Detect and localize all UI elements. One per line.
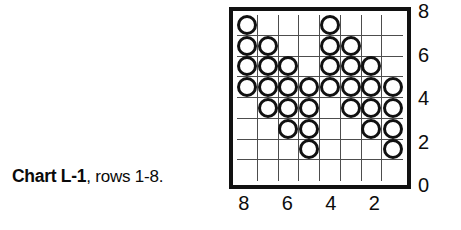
circle-stitch-icon xyxy=(320,77,340,97)
chart-cell-r3-c6 xyxy=(341,119,362,140)
chart-cell-r1-c7 xyxy=(362,160,383,181)
chart-cell-r1-c6 xyxy=(341,160,362,181)
circle-stitch-icon xyxy=(299,98,319,118)
chart-cell-r5-c4 xyxy=(299,77,320,98)
chart-cell-r1-c4 xyxy=(299,160,320,181)
chart-cell-r7-c4 xyxy=(299,36,320,57)
chart-cell-r2-c2 xyxy=(258,140,279,161)
chart-cell-r2-c6 xyxy=(341,140,362,161)
circle-stitch-icon xyxy=(320,56,340,76)
chart-cell-r6-c7 xyxy=(362,57,383,78)
circle-stitch-icon xyxy=(341,36,361,56)
chart-cell-r7-c1 xyxy=(237,36,258,57)
chart-cell-r4-c8 xyxy=(382,98,403,119)
chart-cell-r3-c1 xyxy=(237,119,258,140)
chart-cell-r3-c7 xyxy=(362,119,383,140)
circle-stitch-icon xyxy=(341,77,361,97)
x-axis-tick-label-6: 6 xyxy=(275,193,299,213)
circle-stitch-icon xyxy=(237,77,257,97)
y-axis-tick-label-2: 2 xyxy=(418,132,444,152)
chart-cell-r6-c2 xyxy=(258,57,279,78)
chart-cell-r8-c2 xyxy=(258,15,279,36)
x-axis: 8642 xyxy=(229,193,411,223)
chart-cell-r5-c6 xyxy=(341,77,362,98)
chart-cell-r6-c6 xyxy=(341,57,362,78)
chart-cell-r4-c5 xyxy=(320,98,341,119)
chart-cell-r3-c8 xyxy=(382,119,403,140)
chart-cell-r2-c1 xyxy=(237,140,258,161)
chart-cell-r4-c7 xyxy=(362,98,383,119)
knitting-chart xyxy=(229,7,411,189)
circle-stitch-icon xyxy=(361,98,381,118)
chart-cell-r5-c7 xyxy=(362,77,383,98)
chart-cell-r8-c4 xyxy=(299,15,320,36)
y-axis: 86420 xyxy=(418,0,452,230)
chart-caption-title: Chart L-1 xyxy=(12,166,86,186)
chart-cell-r7-c5 xyxy=(320,36,341,57)
chart-cell-r6-c8 xyxy=(382,57,403,78)
y-axis-tick-label-6: 6 xyxy=(418,45,444,65)
chart-cell-r8-c6 xyxy=(341,15,362,36)
chart-cell-r3-c3 xyxy=(279,119,300,140)
circle-stitch-icon xyxy=(237,15,257,35)
chart-cell-r7-c3 xyxy=(279,36,300,57)
chart-cell-r5-c3 xyxy=(279,77,300,98)
circle-stitch-icon xyxy=(341,56,361,76)
chart-cell-r6-c5 xyxy=(320,57,341,78)
chart-cell-r6-c3 xyxy=(279,57,300,78)
chart-cell-r1-c1 xyxy=(237,160,258,181)
chart-cell-r6-c1 xyxy=(237,57,258,78)
y-axis-tick-label-0: 0 xyxy=(418,175,444,195)
circle-stitch-icon xyxy=(237,36,257,56)
circle-stitch-icon xyxy=(361,56,381,76)
chart-cell-r2-c3 xyxy=(279,140,300,161)
chart-cell-r8-c3 xyxy=(279,15,300,36)
chart-cell-r7-c2 xyxy=(258,36,279,57)
chart-cell-r3-c4 xyxy=(299,119,320,140)
y-axis-tick-label-4: 4 xyxy=(418,88,444,108)
chart-cell-r2-c8 xyxy=(382,140,403,161)
chart-cell-r5-c1 xyxy=(237,77,258,98)
chart-cell-r7-c7 xyxy=(362,36,383,57)
chart-cell-r2-c4 xyxy=(299,140,320,161)
chart-cell-r1-c3 xyxy=(279,160,300,181)
chart-cell-r8-c8 xyxy=(382,15,403,36)
x-axis-tick-label-8: 8 xyxy=(232,193,256,213)
circle-stitch-icon xyxy=(299,119,319,139)
chart-cell-r6-c4 xyxy=(299,57,320,78)
chart-cell-r8-c1 xyxy=(237,15,258,36)
chart-cell-r3-c5 xyxy=(320,119,341,140)
chart-cell-r4-c6 xyxy=(341,98,362,119)
circle-stitch-icon xyxy=(341,98,361,118)
chart-cell-r5-c2 xyxy=(258,77,279,98)
chart-cell-r1-c2 xyxy=(258,160,279,181)
circle-stitch-icon xyxy=(361,119,381,139)
chart-cell-r2-c5 xyxy=(320,140,341,161)
circle-stitch-icon xyxy=(361,77,381,97)
chart-cell-r5-c8 xyxy=(382,77,403,98)
circle-stitch-icon xyxy=(278,56,298,76)
chart-caption: Chart L-1, rows 1-8. xyxy=(12,166,163,187)
chart-cell-r8-c7 xyxy=(362,15,383,36)
circle-stitch-icon xyxy=(258,36,278,56)
circle-stitch-icon xyxy=(299,139,319,159)
circle-stitch-icon xyxy=(258,77,278,97)
circle-stitch-icon xyxy=(278,119,298,139)
y-axis-tick-label-8: 8 xyxy=(418,1,444,21)
chart-cell-r4-c2 xyxy=(258,98,279,119)
circle-stitch-icon xyxy=(258,98,278,118)
chart-cell-r8-c5 xyxy=(320,15,341,36)
circle-stitch-icon xyxy=(278,77,298,97)
chart-cell-r4-c4 xyxy=(299,98,320,119)
circle-stitch-icon xyxy=(237,56,257,76)
circle-stitch-icon xyxy=(278,98,298,118)
chart-grid xyxy=(237,15,403,181)
chart-cell-r4-c3 xyxy=(279,98,300,119)
chart-caption-subtitle: , rows 1-8. xyxy=(86,167,163,186)
chart-cell-r7-c8 xyxy=(382,36,403,57)
circle-stitch-icon xyxy=(383,98,403,118)
circle-stitch-icon xyxy=(258,56,278,76)
circle-stitch-icon xyxy=(383,77,403,97)
chart-cell-r1-c8 xyxy=(382,160,403,181)
circle-stitch-icon xyxy=(320,36,340,56)
